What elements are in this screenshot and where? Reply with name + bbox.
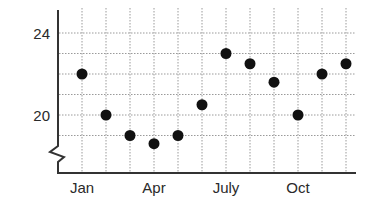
- data-point-jun: [197, 99, 208, 110]
- data-point-jan: [77, 69, 88, 80]
- axes: [50, 10, 356, 173]
- data-point-feb: [101, 110, 112, 121]
- data-point-aug: [245, 58, 256, 69]
- y-tick-label: 24: [33, 25, 50, 42]
- x-tick-label: Jan: [70, 179, 94, 196]
- y-tick-label: 20: [33, 107, 50, 124]
- data-point-sep: [269, 77, 280, 88]
- data-point-dec: [341, 58, 352, 69]
- x-tick-label: Oct: [286, 179, 310, 196]
- x-tick-label: July: [213, 179, 240, 196]
- data-point-may: [173, 130, 184, 141]
- horizontal-gridlines: [59, 33, 355, 136]
- y-tick-labels: 24 20: [33, 25, 50, 124]
- x-tick-labels: Jan Apr July Oct: [70, 179, 311, 196]
- data-point-apr: [149, 138, 160, 149]
- scatter-chart: 24 20 Jan Apr July Oct: [0, 0, 370, 208]
- x-tick-label: Apr: [142, 179, 165, 196]
- data-point-jul: [221, 48, 232, 59]
- data-point-nov: [317, 69, 328, 80]
- data-point-oct: [293, 110, 304, 121]
- y-axis: [50, 10, 356, 173]
- data-points: [77, 48, 352, 149]
- data-point-mar: [125, 130, 136, 141]
